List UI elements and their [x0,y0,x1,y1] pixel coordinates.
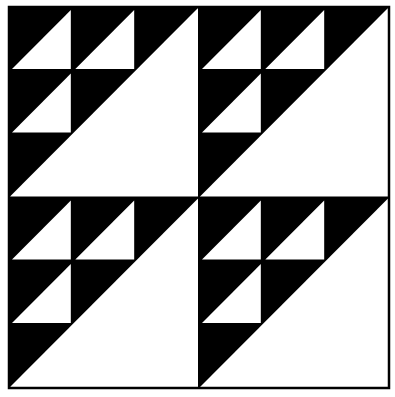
quilt-block [199,198,389,389]
quilt-pattern [0,0,395,397]
quilt-block [9,198,199,389]
quilt-block [199,7,389,198]
quilt-blocks [9,7,389,388]
quilt-block [9,7,199,198]
